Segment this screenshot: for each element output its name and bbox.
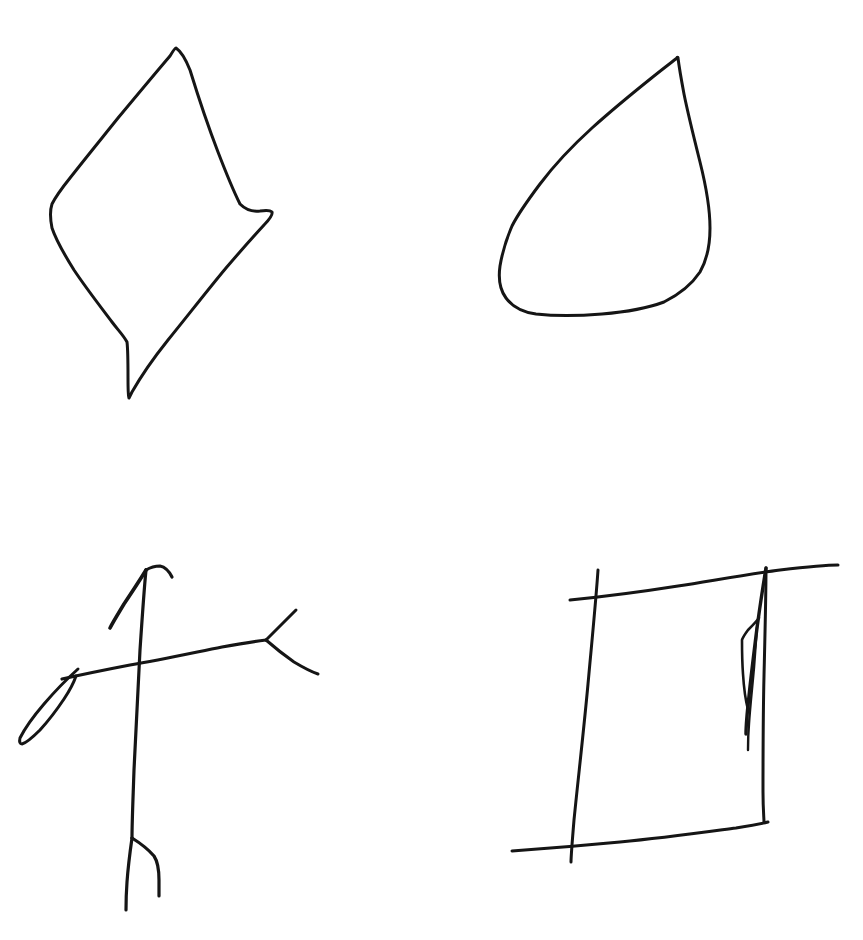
paper-background (0, 0, 863, 940)
sketch-canvas (0, 0, 863, 940)
sketch-sheet: Closed freehand polygon resembling a kit… (0, 0, 863, 940)
